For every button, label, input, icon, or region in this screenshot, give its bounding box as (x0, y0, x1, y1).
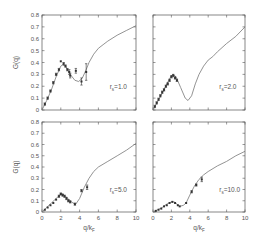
panel-top-left: 00.10.20.30.40.50.60.70.8rs=1.0G(q) (12, 12, 136, 113)
data-point (176, 79, 178, 81)
data-point (60, 60, 62, 62)
y-tick-label: 0.4 (31, 164, 40, 170)
x-tick-label: 8 (116, 215, 120, 221)
x-tick-label: 6 (97, 215, 101, 221)
y-tick-label: 0.7 (31, 130, 40, 136)
data-point (201, 178, 203, 180)
y-tick-label: 0.7 (31, 24, 40, 30)
data-point (191, 191, 193, 193)
data-point (167, 83, 169, 85)
rs-label: rs=5.0 (110, 186, 128, 195)
theory-curve (153, 27, 245, 110)
data-point (69, 201, 71, 203)
data-point (52, 202, 54, 204)
data-point (179, 205, 181, 207)
rs-label: rs=2.0 (219, 83, 237, 92)
data-point (52, 82, 54, 84)
y-tick-label: 0.6 (31, 36, 40, 42)
y-tick-label: 0 (36, 209, 40, 215)
x-tick-label: 4 (78, 215, 82, 221)
data-point (80, 81, 82, 83)
data-point (160, 208, 162, 210)
y-tick-label: 0.1 (31, 198, 40, 204)
data-point (166, 204, 168, 206)
data-point (155, 210, 157, 212)
data-point (158, 209, 160, 211)
x-axis-title: q/kF (83, 224, 95, 233)
y-tick-label: 0.8 (31, 12, 40, 18)
theory-curve (42, 26, 136, 110)
data-point (64, 195, 66, 197)
x-axis-title: q/kF (193, 224, 205, 233)
data-point (69, 75, 71, 77)
y-tick-label: 0.8 (31, 119, 40, 125)
data-point (163, 205, 165, 207)
y-tick-label: 0.2 (31, 187, 40, 193)
data-point (75, 70, 77, 72)
data-point (47, 97, 49, 99)
panel-bottom-right: 0246810rs=10.0q/kF (151, 122, 249, 233)
x-tick-label: 8 (225, 215, 229, 221)
data-point (159, 95, 161, 97)
data-point (161, 91, 163, 93)
data-point (169, 202, 171, 204)
x-tick-label: 2 (170, 215, 174, 221)
figure: 00.10.20.30.40.50.60.70.8rs=1.0G(q)rs=2.… (0, 0, 259, 243)
x-tick-label: 6 (207, 215, 211, 221)
data-point (195, 184, 197, 186)
data-point (154, 105, 156, 107)
x-tick-label: 10 (133, 215, 140, 221)
theory-curve (153, 151, 245, 212)
data-point (65, 198, 67, 200)
data-point (65, 65, 67, 67)
data-point (85, 71, 87, 73)
data-point (171, 201, 173, 203)
data-point (47, 207, 49, 209)
theory-curve (42, 143, 136, 212)
y-axis-title: G(q) (12, 56, 20, 69)
rs-label: rs=1.0 (110, 83, 128, 92)
x-tick-label: 0 (151, 215, 155, 221)
data-point (49, 90, 51, 92)
data-point (49, 204, 51, 206)
y-tick-label: 0.5 (31, 48, 40, 54)
data-point (163, 89, 165, 91)
x-tick-label: 10 (242, 215, 249, 221)
y-tick-label: 0.1 (31, 95, 40, 101)
data-point (158, 98, 160, 100)
plot-frame (153, 122, 245, 212)
y-tick-label: 0.2 (31, 83, 40, 89)
data-point (177, 204, 179, 206)
data-point (156, 102, 158, 104)
panel-top-right: rs=2.0 (153, 15, 245, 110)
data-point (86, 186, 88, 188)
plot-frame (153, 15, 245, 110)
data-point (174, 77, 176, 79)
data-point (185, 202, 187, 204)
data-point (58, 195, 60, 197)
data-point (174, 202, 176, 204)
y-tick-label: 0.6 (31, 142, 40, 148)
y-tick-label: 0.4 (31, 60, 40, 66)
y-tick-label: 0.5 (31, 153, 40, 159)
y-tick-label: 0.3 (31, 175, 40, 181)
data-point (55, 73, 57, 75)
data-point (74, 203, 76, 205)
data-point (68, 71, 70, 73)
data-point (169, 79, 171, 81)
y-tick-label: 0.3 (31, 71, 40, 77)
data-point (58, 69, 60, 71)
x-tick-label: 4 (188, 215, 192, 221)
y-tick-label: 0 (36, 107, 40, 113)
data-point (44, 209, 46, 211)
x-tick-label: 0 (40, 215, 44, 221)
data-point (80, 190, 82, 192)
data-point (55, 199, 57, 201)
x-tick-label: 2 (59, 215, 63, 221)
data-point (63, 63, 65, 65)
panel-bottom-left: 024681000.10.20.30.40.50.60.70.8rs=5.0G(… (12, 119, 140, 233)
y-axis-title: G(q) (12, 161, 20, 174)
data-point (172, 75, 174, 77)
rs-label: rs=10.0 (219, 186, 240, 195)
data-point (44, 103, 46, 105)
